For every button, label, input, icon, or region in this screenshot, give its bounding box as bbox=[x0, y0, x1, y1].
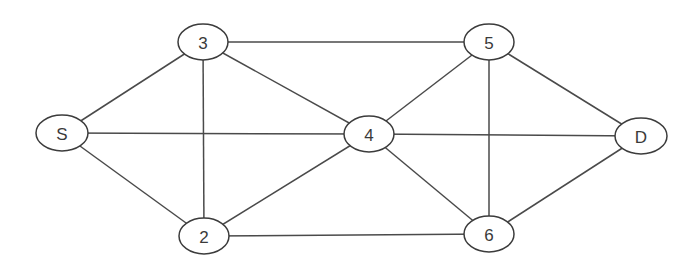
node-S: S bbox=[36, 115, 88, 151]
node-label: S bbox=[56, 125, 67, 144]
edge-S-2 bbox=[62, 133, 204, 236]
node-label: D bbox=[635, 128, 647, 147]
edge-3-4 bbox=[203, 42, 369, 134]
edge-S-3 bbox=[62, 42, 203, 133]
node-5: 5 bbox=[464, 24, 514, 60]
edge-S-4 bbox=[62, 133, 369, 134]
edge-4-6 bbox=[369, 134, 489, 234]
node-label: 6 bbox=[484, 226, 493, 245]
edge-2-6 bbox=[204, 234, 489, 236]
edge-3-2 bbox=[203, 42, 204, 236]
edge-2-4 bbox=[204, 134, 369, 236]
node-4: 4 bbox=[344, 116, 394, 152]
node-label: 2 bbox=[199, 228, 208, 247]
edge-4-5 bbox=[369, 42, 489, 134]
node-label: 3 bbox=[198, 34, 207, 53]
network-graph: S32456D bbox=[0, 0, 699, 269]
node-D: D bbox=[615, 118, 667, 154]
node-6: 6 bbox=[464, 216, 514, 252]
edge-5-D bbox=[489, 42, 641, 136]
edge-6-D bbox=[489, 136, 641, 234]
node-3: 3 bbox=[178, 24, 228, 60]
edge-4-D bbox=[369, 134, 641, 136]
node-layer: S32456D bbox=[36, 24, 667, 254]
node-2: 2 bbox=[179, 218, 229, 254]
node-label: 4 bbox=[364, 126, 373, 145]
node-label: 5 bbox=[484, 34, 493, 53]
